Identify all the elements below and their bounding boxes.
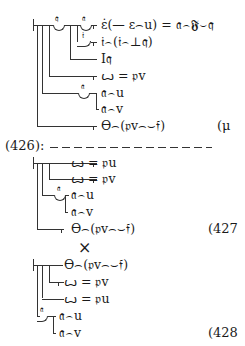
formula-row: 𝔞⌢v (71, 205, 93, 219)
stroke (37, 229, 64, 230)
formula-row: ϴ⌢(𝔭v⌢⌣𝔣) (64, 258, 128, 272)
tick (93, 126, 94, 130)
formula-row: ꙍ = 𝔭v (71, 172, 115, 186)
concavity-label: 𝔞 (82, 15, 85, 23)
concavity-i (77, 41, 91, 47)
formula-row: ϴ⌢(𝔭v⌢⌣𝔣) (71, 222, 135, 236)
formula-row: 𝔞⌢v (101, 102, 123, 116)
concavity-label: 𝔮 (55, 15, 58, 23)
equation-number: (427 (208, 222, 238, 236)
condition-stroke (49, 265, 50, 282)
stroke (42, 93, 78, 94)
stroke (91, 42, 97, 43)
condition-stroke (37, 163, 38, 229)
formula-row: I𝔮 (101, 52, 112, 66)
concavity-label: 𝔞 (40, 306, 43, 314)
tick (93, 42, 94, 46)
tick (93, 76, 94, 80)
condition-stroke (42, 265, 43, 298)
stroke (91, 25, 97, 26)
equation-number: (μ (217, 119, 231, 133)
condition-stroke (49, 163, 50, 179)
formula-row: ꙍ = 𝔭v (64, 275, 108, 289)
formula-row: ϴ⌢(𝔭v⌢⌣𝔣) (101, 119, 165, 133)
formula-row: 𝔞⌢u (59, 309, 82, 323)
condition-stroke (77, 25, 78, 42)
formula-row: 𝔦⌢(𝔦⌢⊥𝔮) (101, 35, 153, 49)
condition-stroke (42, 163, 43, 195)
formula-row: ꙍ = 𝔭v (101, 69, 145, 83)
tick (61, 229, 62, 233)
equation-number: (428 (208, 326, 238, 340)
tick (58, 282, 59, 286)
condition-stroke (37, 25, 38, 126)
stroke (53, 333, 56, 334)
condition-stroke (42, 25, 43, 93)
concavity-label: 𝔦 (82, 32, 84, 40)
separator-label: (426): (5, 139, 44, 153)
condition-stroke (53, 316, 54, 333)
concavity-label: 𝔞 (81, 83, 84, 91)
concavity-a (37, 316, 48, 322)
formula-row: ꙍ = 𝔭u (64, 292, 109, 306)
concavity-label: 𝔞 (57, 185, 60, 193)
stroke (37, 126, 97, 127)
stroke (49, 76, 97, 77)
stroke (42, 299, 64, 300)
stroke (96, 109, 99, 110)
dashed-separator (50, 147, 212, 148)
condition-stroke (96, 93, 97, 109)
condition-stroke (65, 195, 66, 212)
formula-row: 𝔞⌢u (71, 188, 94, 202)
stroke (42, 195, 54, 196)
content-stroke (33, 25, 53, 26)
cross-symbol: × (78, 241, 91, 255)
tick (93, 25, 94, 29)
formula-row: ꙍ = 𝔭u (71, 156, 116, 170)
stroke (65, 212, 68, 213)
condition-stroke (37, 265, 38, 316)
formula-row: 𝔞⌢u (101, 86, 124, 100)
condition-stroke (49, 25, 50, 76)
stroke (49, 282, 64, 283)
stroke (70, 59, 97, 60)
formula-row: ε̇(— ε⌢u) = 𝔞⌢𝕱⌣𝔮 (101, 18, 214, 32)
condition-stroke (70, 25, 71, 59)
formula-row: 𝔞⌢v (59, 326, 81, 340)
stroke (48, 316, 56, 317)
